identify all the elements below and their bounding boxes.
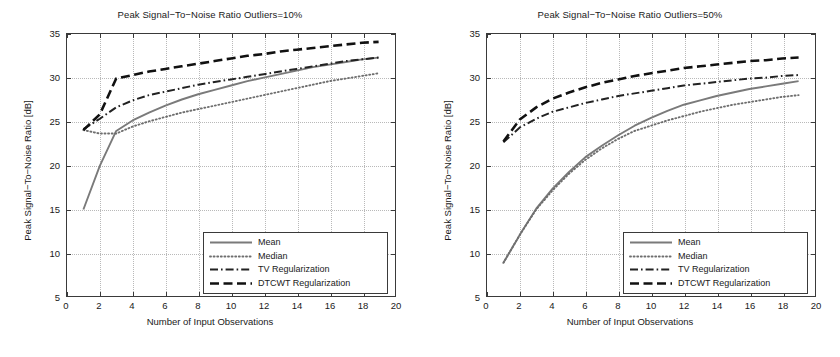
panel-outliers-50: Peak Signal−To−Noise Ratio Outliers=50% … bbox=[420, 0, 840, 357]
y-tick-label: 30 bbox=[36, 72, 60, 83]
x-tick-label: 16 bbox=[745, 300, 756, 311]
x-tick-label: 12 bbox=[679, 300, 690, 311]
y-tick-label: 5 bbox=[456, 292, 480, 303]
legend-label: DTCWT Regularization bbox=[678, 278, 770, 289]
y-tick-label: 15 bbox=[456, 204, 480, 215]
x-tick-label: 12 bbox=[259, 300, 270, 311]
legend-item: Mean bbox=[629, 236, 802, 249]
x-tick-label: 6 bbox=[582, 300, 587, 311]
legend-label: TV Regularization bbox=[678, 264, 750, 275]
legend-label: Mean bbox=[678, 237, 701, 248]
chart-title: Peak Signal−To−Noise Ratio Outliers=50% bbox=[420, 9, 840, 20]
x-tick-label: 8 bbox=[195, 300, 200, 311]
series-line-dtcwt-regularization bbox=[503, 58, 798, 142]
legend: MeanMedianTV RegularizationDTCWT Regular… bbox=[623, 232, 808, 294]
x-axis-label: Number of Input Observations bbox=[420, 316, 840, 327]
x-tick-label: 20 bbox=[391, 300, 402, 311]
x-tick-label: 18 bbox=[778, 300, 789, 311]
x-tick-label: 2 bbox=[516, 300, 521, 311]
y-tick-label: 15 bbox=[36, 204, 60, 215]
x-tick-label: 20 bbox=[811, 300, 822, 311]
y-axis-label: Peak Signal−To−Noise Ratio [dB] bbox=[442, 56, 453, 286]
x-tick-label: 6 bbox=[162, 300, 167, 311]
x-tick-label: 4 bbox=[549, 300, 554, 311]
y-tick-label: 5 bbox=[36, 292, 60, 303]
x-tick-label: 2 bbox=[96, 300, 101, 311]
legend-swatch-solid bbox=[209, 237, 253, 248]
x-tick-label: 8 bbox=[615, 300, 620, 311]
legend-swatch-dashdot bbox=[629, 264, 673, 275]
series-line-tv-regularization bbox=[503, 75, 798, 142]
legend-swatch-dashdot bbox=[209, 264, 253, 275]
y-axis-label: Peak Signal−To−Noise Ratio [dB] bbox=[22, 56, 33, 286]
y-tick-label: 35 bbox=[36, 28, 60, 39]
y-tick-label: 25 bbox=[36, 116, 60, 127]
x-tick-label: 0 bbox=[63, 300, 68, 311]
y-tick-label: 10 bbox=[456, 248, 480, 259]
legend-label: TV Regularization bbox=[258, 264, 330, 275]
panel-outliers-10: Peak Signal−To−Noise Ratio Outliers=10% … bbox=[0, 0, 420, 357]
legend-item: TV Regularization bbox=[629, 263, 802, 276]
legend: MeanMedianTV RegularizationDTCWT Regular… bbox=[203, 232, 388, 294]
y-tick-label: 35 bbox=[456, 28, 480, 39]
legend-item: DTCWT Regularization bbox=[629, 277, 802, 290]
x-tick-label: 18 bbox=[358, 300, 369, 311]
x-tick-label: 0 bbox=[483, 300, 488, 311]
legend-label: DTCWT Regularization bbox=[258, 278, 350, 289]
x-tick-label: 16 bbox=[325, 300, 336, 311]
legend-item: Median bbox=[209, 250, 382, 263]
x-tick-label: 4 bbox=[129, 300, 134, 311]
legend-item: Median bbox=[629, 250, 802, 263]
legend-swatch-dotted bbox=[629, 251, 673, 262]
x-tick-label: 10 bbox=[226, 300, 237, 311]
x-axis-label: Number of Input Observations bbox=[0, 316, 420, 327]
figure-two-panel-psnr-comparison: Peak Signal−To−Noise Ratio Outliers=10% … bbox=[0, 0, 840, 357]
chart-title: Peak Signal−To−Noise Ratio Outliers=10% bbox=[0, 9, 420, 20]
legend-swatch-solid bbox=[629, 237, 673, 248]
legend-swatch-dotted bbox=[209, 251, 253, 262]
y-tick-label: 20 bbox=[36, 160, 60, 171]
legend-label: Median bbox=[678, 251, 708, 262]
x-tick-label: 10 bbox=[646, 300, 657, 311]
x-tick-label: 14 bbox=[712, 300, 723, 311]
y-tick-label: 30 bbox=[456, 72, 480, 83]
legend-item: Mean bbox=[209, 236, 382, 249]
legend-item: DTCWT Regularization bbox=[209, 277, 382, 290]
legend-item: TV Regularization bbox=[209, 263, 382, 276]
legend-swatch-dashed bbox=[629, 278, 673, 289]
y-tick-label: 10 bbox=[36, 248, 60, 259]
y-tick-label: 20 bbox=[456, 160, 480, 171]
series-line-tv-regularization bbox=[83, 58, 378, 130]
legend-swatch-dashed bbox=[209, 278, 253, 289]
y-tick-label: 25 bbox=[456, 116, 480, 127]
legend-label: Mean bbox=[258, 237, 281, 248]
legend-label: Median bbox=[258, 251, 288, 262]
x-tick-label: 14 bbox=[292, 300, 303, 311]
